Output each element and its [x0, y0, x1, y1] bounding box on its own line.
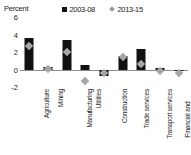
x-label-cell: Transport services	[132, 89, 151, 153]
chart-legend: 2003-08 2013-15	[62, 4, 143, 14]
diamond-marker-icon	[109, 6, 115, 12]
legend-item-2013-15: 2013-15	[109, 5, 143, 14]
legend-item-2003-08: 2003-08	[62, 5, 95, 14]
chart-column	[113, 17, 132, 87]
marker-2013-15	[81, 77, 89, 85]
chart-column	[76, 17, 95, 87]
x-label-cell: Mining	[39, 89, 58, 153]
chart-column	[132, 17, 151, 87]
x-axis-labels: AgricultureMiningManufacturingUtilitiesC…	[20, 89, 188, 153]
series-columns	[20, 17, 188, 87]
chart-container: Percent 2003-08 2013-15 6420-2 Agricultu…	[0, 0, 191, 155]
legend-label-2013-15: 2013-15	[117, 5, 142, 14]
x-label-cell: Manufacturing	[57, 89, 76, 153]
chart-column	[169, 17, 188, 87]
chart-column	[151, 17, 170, 87]
legend-label-2003-08: 2003-08	[70, 5, 95, 14]
x-label-cell: Government andPersonal services	[169, 89, 188, 153]
y-tick-label: 4	[14, 30, 18, 39]
y-tick-label: 2	[14, 48, 18, 57]
chart-column	[39, 17, 58, 87]
bar-2003-08	[81, 65, 90, 69]
bar-swatch-icon	[62, 7, 67, 12]
x-label-cell: Financial andBusiness services	[151, 89, 170, 153]
chart-column	[20, 17, 39, 87]
y-tick-label: -2	[11, 83, 18, 92]
chart-column	[57, 17, 76, 87]
y-tick-label: 6	[14, 13, 18, 22]
x-label-cell: Construction	[95, 89, 114, 153]
x-label-cell: Agriculture	[20, 89, 39, 153]
x-label-cell: Trade services	[113, 89, 132, 153]
y-tick-label: 0	[14, 65, 18, 74]
x-label-cell: Utilities	[76, 89, 95, 153]
chart-column	[95, 17, 114, 87]
plot-area: 6420-2	[20, 17, 188, 87]
